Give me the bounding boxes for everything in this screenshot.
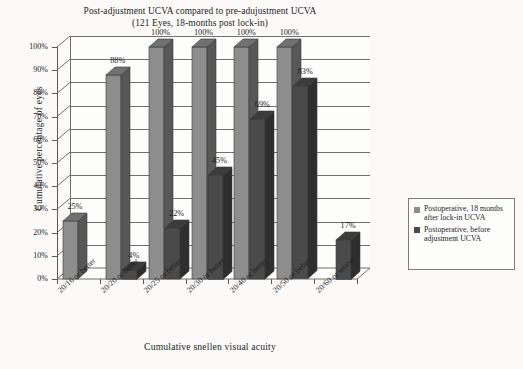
chart-figure: Post-adjustment UCVA compared to pre-adu… bbox=[0, 0, 523, 369]
bar-data-label: 100% bbox=[275, 28, 303, 37]
bar bbox=[250, 111, 274, 279]
y-axis-tick-mark bbox=[52, 209, 57, 210]
y-axis-tick-mark bbox=[52, 163, 57, 164]
bar bbox=[293, 78, 317, 279]
chart-legend: Postoperative, 18 months after lock-in U… bbox=[408, 198, 515, 270]
legend-swatch-icon bbox=[414, 207, 420, 213]
y-axis-tick-mark bbox=[52, 93, 57, 94]
legend-label: Postoperative, before adjustment UCVA bbox=[424, 225, 510, 244]
bar-data-label: 88% bbox=[104, 56, 132, 65]
bar-data-label: 45% bbox=[206, 156, 234, 165]
x-axis-tick-mark bbox=[271, 279, 272, 284]
x-axis-tick-mark bbox=[143, 279, 144, 284]
y-axis-title: Cumulative percentage of eyes bbox=[33, 49, 44, 249]
bar-data-label: 100% bbox=[232, 28, 260, 37]
bar-data-label: 22% bbox=[163, 209, 191, 218]
bar bbox=[106, 67, 130, 279]
bar-data-label: 100% bbox=[190, 28, 218, 37]
legend-label: Postoperative, 18 months after lock-in U… bbox=[424, 204, 510, 223]
legend-item: Postoperative, before adjustment UCVA bbox=[414, 225, 510, 244]
x-axis-tick-mark bbox=[228, 279, 229, 284]
x-axis-tick-mark bbox=[357, 279, 358, 284]
bar-data-label: 25% bbox=[61, 202, 89, 211]
y-axis-tick-mark bbox=[52, 233, 57, 234]
y-axis-tick-mark bbox=[52, 140, 57, 141]
bar-data-label: 17% bbox=[334, 221, 362, 230]
gridline bbox=[70, 36, 370, 37]
bar-data-label: 83% bbox=[291, 67, 319, 76]
value-axis-line bbox=[57, 47, 58, 279]
y-axis-tick-mark bbox=[52, 70, 57, 71]
x-axis-title: Cumulative snellen visual acuity bbox=[60, 341, 360, 352]
plot-area: 100%90%80%70%60%50%40%30%20%10%0% Cumula… bbox=[0, 0, 523, 369]
bar-data-label: 69% bbox=[248, 100, 276, 109]
y-axis-tick-mark bbox=[52, 117, 57, 118]
y-axis-tick-mark bbox=[52, 256, 57, 257]
x-axis-tick-mark bbox=[57, 279, 58, 284]
x-axis-tick-mark bbox=[186, 279, 187, 284]
legend-swatch-icon bbox=[414, 227, 420, 233]
legend-item: Postoperative, 18 months after lock-in U… bbox=[414, 204, 510, 223]
y-axis-tick-mark bbox=[52, 47, 57, 48]
x-axis-tick-mark bbox=[100, 279, 101, 284]
y-axis-tick-label: 10% bbox=[14, 251, 48, 260]
y-axis-tick-mark bbox=[52, 186, 57, 187]
y-axis-tick-label: 0% bbox=[14, 274, 48, 283]
x-axis-tick-mark bbox=[314, 279, 315, 284]
bar-data-label: 100% bbox=[147, 28, 175, 37]
